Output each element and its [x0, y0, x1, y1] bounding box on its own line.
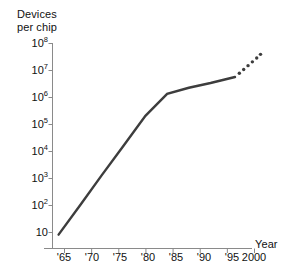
data-line-historical	[59, 77, 235, 235]
projected-data-point	[251, 60, 254, 63]
moores-law-chart: Devicesper chip 108 107 106 105 104 103 …	[0, 0, 281, 275]
projected-data-point	[238, 72, 241, 75]
projected-data-point	[255, 56, 258, 59]
projected-data-point	[259, 53, 262, 56]
y-tick-marks	[49, 44, 53, 233]
x-tick-marks	[65, 249, 255, 254]
plot-area	[0, 0, 281, 275]
projected-data-point	[246, 64, 249, 67]
projected-data-point	[242, 68, 245, 71]
axis-lines	[44, 43, 252, 249]
data-line-projected	[238, 53, 263, 75]
